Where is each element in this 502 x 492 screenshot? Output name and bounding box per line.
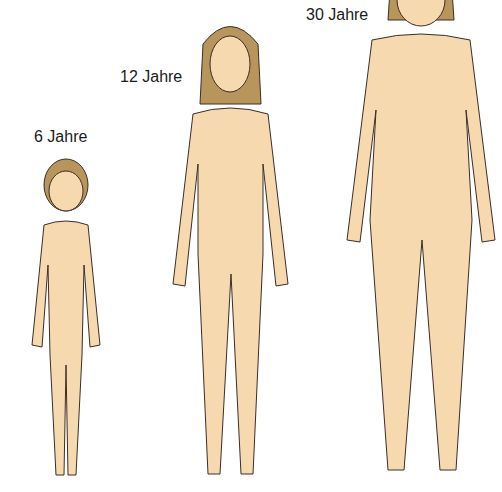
figure-age-12 bbox=[163, 14, 298, 484]
figure-age-30 bbox=[340, 0, 502, 490]
age-label-6: 6 Jahre bbox=[34, 128, 87, 146]
figure-age-6 bbox=[16, 155, 116, 485]
